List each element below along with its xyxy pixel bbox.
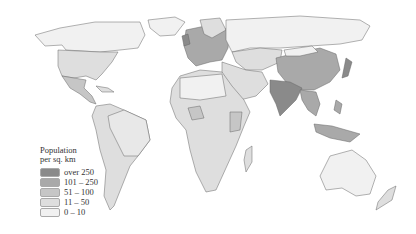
legend-item: 11 – 50	[40, 197, 98, 207]
region-caribbean	[96, 86, 114, 92]
legend-label: over 250	[64, 168, 94, 177]
legend-item: 0 – 10	[40, 207, 98, 217]
map-legend: Population per sq. km over 250 101 – 250…	[40, 146, 98, 217]
region-southeast-asia	[300, 90, 320, 116]
region-mexico	[62, 76, 96, 104]
legend-swatch	[40, 198, 60, 207]
legend-label: 0 – 10	[64, 208, 85, 217]
legend-label: 51 – 100	[64, 188, 94, 197]
region-greenland	[148, 17, 185, 36]
region-madagascar	[244, 146, 252, 172]
region-new-zealand	[376, 186, 396, 210]
legend-swatch	[40, 168, 60, 177]
region-sahara	[180, 74, 226, 100]
legend-title-line2: per sq. km	[40, 155, 98, 164]
region-russia	[226, 16, 370, 52]
region-central-asia	[232, 48, 282, 70]
legend-label: 11 – 50	[64, 198, 89, 207]
legend-title: Population per sq. km	[40, 146, 98, 164]
region-philippines	[334, 100, 342, 114]
region-canada	[35, 22, 145, 52]
legend-item: 51 – 100	[40, 187, 98, 197]
legend-items: over 250 101 – 250 51 – 100 11 – 50 0 – …	[40, 167, 98, 217]
legend-swatch	[40, 178, 60, 187]
legend-item: 101 – 250	[40, 177, 98, 187]
region-india	[270, 80, 302, 116]
region-australia	[320, 150, 376, 196]
legend-swatch	[40, 188, 60, 197]
legend-item: over 250	[40, 167, 98, 177]
legend-label: 101 – 250	[64, 178, 98, 187]
region-indonesia	[314, 124, 360, 142]
region-east-africa	[230, 112, 242, 132]
region-japan	[342, 58, 352, 78]
legend-swatch	[40, 208, 60, 217]
region-usa	[58, 50, 118, 80]
